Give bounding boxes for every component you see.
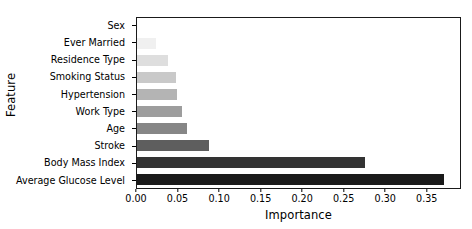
y-axis-tick-label: Stroke bbox=[94, 141, 125, 151]
x-axis-tick-mark bbox=[177, 189, 178, 192]
bar-row bbox=[137, 120, 460, 137]
x-axis-tick-label: 0.05 bbox=[167, 194, 188, 204]
bar-row bbox=[137, 171, 460, 188]
bar-row bbox=[137, 103, 460, 120]
y-axis-tick-label-row: Residence Type bbox=[18, 51, 130, 68]
x-axis-tick-mark bbox=[426, 189, 427, 192]
y-axis-tick-label-row: Body Mass Index bbox=[18, 155, 130, 172]
bar-row bbox=[137, 18, 460, 35]
x-axis-tick-mark bbox=[136, 189, 137, 192]
y-axis-tick-label-row: Sex bbox=[18, 17, 130, 34]
bar bbox=[137, 38, 156, 49]
x-axis-tick-label: 0.20 bbox=[291, 194, 312, 204]
bar bbox=[137, 174, 444, 185]
plot-area bbox=[136, 17, 461, 189]
x-axis-label: Importance bbox=[136, 208, 461, 222]
x-axis-tick-mark bbox=[343, 189, 344, 192]
y-axis-tick-label-row: Age bbox=[18, 120, 130, 137]
y-axis-tick-label: Age bbox=[106, 124, 125, 134]
y-axis-tick-label: Residence Type bbox=[51, 55, 125, 65]
y-axis-tick-label: Smoking Status bbox=[50, 72, 125, 82]
x-axis-tick-mark bbox=[219, 189, 220, 192]
y-axis-tick-label-row: Hypertension bbox=[18, 86, 130, 103]
bar-row bbox=[137, 137, 460, 154]
bar bbox=[137, 106, 182, 117]
x-axis-tick: 0.25 bbox=[333, 189, 354, 204]
bar bbox=[137, 89, 177, 100]
x-axis-tick: 0.35 bbox=[416, 189, 437, 204]
y-axis-tick-label-row: Work Type bbox=[18, 103, 130, 120]
x-axis-tick-label: 0.30 bbox=[375, 194, 396, 204]
x-axis-tick: 0.20 bbox=[291, 189, 312, 204]
y-axis-tick-label: Ever Married bbox=[64, 38, 125, 48]
x-axis-tick-label: 0.10 bbox=[208, 194, 229, 204]
bar bbox=[137, 140, 209, 151]
x-axis-tick: 0.10 bbox=[208, 189, 229, 204]
importance-bar-chart: Feature SexEver MarriedResidence TypeSmo… bbox=[0, 0, 472, 229]
bar bbox=[137, 72, 176, 83]
bar bbox=[137, 21, 138, 32]
y-axis-tick-label-row: Average Glucose Level bbox=[18, 172, 130, 189]
bar-row bbox=[137, 154, 460, 171]
x-axis-tick-label: 0.00 bbox=[125, 194, 146, 204]
bar-row bbox=[137, 86, 460, 103]
x-axis-tick: 0.30 bbox=[375, 189, 396, 204]
y-axis-tick-label: Sex bbox=[107, 21, 125, 31]
y-axis-tick-label: Work Type bbox=[76, 107, 125, 117]
bar bbox=[137, 123, 187, 134]
x-axis-tick-mark bbox=[260, 189, 261, 192]
bar bbox=[137, 157, 365, 168]
x-axis-tick-label: 0.35 bbox=[416, 194, 437, 204]
bar-series bbox=[137, 18, 460, 188]
x-axis-tick-label: 0.15 bbox=[250, 194, 271, 204]
x-axis-ticks: 0.000.050.100.150.200.250.300.35 bbox=[136, 189, 461, 207]
bar-row bbox=[137, 69, 460, 86]
x-axis-tick-mark bbox=[385, 189, 386, 192]
y-axis-tick-label-row: Smoking Status bbox=[18, 69, 130, 86]
x-axis-tick: 0.15 bbox=[250, 189, 271, 204]
bar bbox=[137, 55, 168, 66]
bar-row bbox=[137, 35, 460, 52]
y-axis-tick-label: Hypertension bbox=[61, 90, 125, 100]
y-axis-tick-label-row: Stroke bbox=[18, 137, 130, 154]
x-axis-tick: 0.05 bbox=[167, 189, 188, 204]
y-axis-tick-label: Body Mass Index bbox=[44, 158, 125, 168]
y-axis-tick-label-row: Ever Married bbox=[18, 34, 130, 51]
x-axis-tick: 0.00 bbox=[125, 189, 146, 204]
y-axis-tick-label: Average Glucose Level bbox=[16, 176, 125, 186]
y-axis-tick-labels: SexEver MarriedResidence TypeSmoking Sta… bbox=[18, 17, 130, 189]
bar-row bbox=[137, 52, 460, 69]
x-axis-tick-mark bbox=[302, 189, 303, 192]
x-axis-tick-label: 0.25 bbox=[333, 194, 354, 204]
y-axis-label: Feature bbox=[4, 73, 18, 117]
